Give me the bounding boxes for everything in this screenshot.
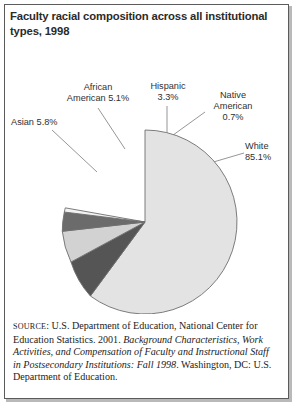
pie-slices [62,130,237,314]
source-divider [5,316,288,317]
figure-title: Faculty racial composition across all in… [10,9,272,39]
pie-label-asian: Asian 5.8% [11,117,57,128]
pie-label-african-american: African American 5.1% [57,82,139,104]
pie-chart: Asian 5.8% African American 5.1% Hispani… [5,46,288,314]
source-note: SOURCE: U.S. Department of Education, Na… [13,320,275,384]
pie-label-white: White 85.1% [245,141,271,163]
leader-line-asian [52,130,97,172]
leader-line-african-american [98,108,125,149]
source-label: SOURCE [13,322,46,331]
leader-line-native-american [169,112,205,138]
figure-container: Faculty racial composition across all in… [0,0,296,405]
pie-label-hispanic: Hispanic 3.3% [141,81,195,103]
leader-line-white [210,153,244,163]
pie-label-native-american: Native American 0.7% [202,90,264,122]
